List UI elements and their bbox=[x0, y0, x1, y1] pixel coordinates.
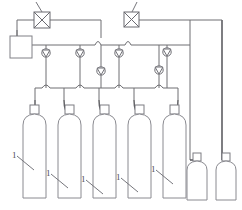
gas-cylinder-7-neck bbox=[222, 153, 230, 161]
check-valve-1[interactable] bbox=[42, 49, 50, 57]
shutoff-valve-left[interactable] bbox=[34, 2, 50, 28]
shutoff-valve-left-leader bbox=[36, 2, 42, 12]
pipe-valve-to-tank bbox=[17, 20, 34, 36]
callout-label-5: 1 bbox=[151, 164, 156, 174]
receiver-tank-body bbox=[10, 36, 32, 58]
shutoff-valve-right-leader bbox=[132, 2, 137, 12]
check-valve-3[interactable] bbox=[115, 49, 123, 57]
receiver-tank bbox=[10, 30, 32, 58]
piping-schematic-diagram: 1 1 1 1 1 bbox=[0, 0, 242, 210]
gas-cylinder-7-body bbox=[216, 161, 236, 200]
callout-label-1: 1 bbox=[12, 150, 17, 160]
check-valve-6[interactable] bbox=[155, 66, 163, 74]
check-valve-4[interactable] bbox=[163, 48, 171, 56]
gas-cylinder-7 bbox=[216, 153, 236, 200]
gas-cylinder-4-body bbox=[128, 114, 151, 198]
gas-cylinder-2-neck bbox=[65, 105, 74, 114]
gas-cylinder-5 bbox=[163, 105, 186, 198]
gas-cylinder-4-neck bbox=[135, 105, 144, 114]
gas-cylinder-1-neck bbox=[30, 105, 39, 114]
gas-cylinder-2 bbox=[58, 105, 81, 198]
gas-cylinder-1 bbox=[23, 105, 46, 198]
gas-cylinder-3 bbox=[93, 105, 116, 198]
callout-label-4: 1 bbox=[116, 172, 121, 182]
callout-label-2: 1 bbox=[46, 168, 51, 178]
pipe-jump-1 bbox=[95, 42, 101, 46]
gas-cylinder-1-body bbox=[23, 114, 46, 198]
pipe-jump-2 bbox=[125, 42, 131, 46]
diagram-canvas: 1 1 1 1 1 bbox=[0, 0, 242, 210]
gas-cylinder-2-body bbox=[58, 114, 81, 198]
gas-cylinder-6-body bbox=[187, 161, 207, 200]
shutoff-valve-right[interactable] bbox=[124, 2, 139, 27]
gas-cylinder-5-neck bbox=[170, 105, 179, 114]
gas-cylinder-3-body bbox=[93, 114, 116, 198]
gas-cylinder-3-neck bbox=[100, 105, 109, 114]
gas-cylinder-5-body bbox=[163, 114, 186, 198]
gas-cylinder-6-neck bbox=[193, 153, 201, 161]
check-valve-5[interactable] bbox=[97, 67, 105, 75]
callout-label-3: 1 bbox=[81, 174, 86, 184]
lower-manifold bbox=[35, 85, 178, 100]
check-valve-2[interactable] bbox=[76, 49, 84, 57]
gas-cylinder-4 bbox=[128, 105, 151, 198]
